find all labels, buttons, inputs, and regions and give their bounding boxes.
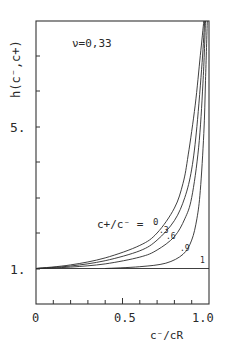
- y-tick-label-1: 1.: [10, 262, 26, 277]
- curves: [36, 21, 209, 269]
- chart: 1. 5. 0 0.5 1.0 h(c⁻,c+) c⁻/cR ν=0,33 c+…: [0, 0, 225, 349]
- x-axis-ticks: [53, 298, 191, 304]
- poisson-ratio-annotation: ν=0,33: [72, 37, 112, 50]
- curve-label-0.9: .9: [180, 244, 190, 253]
- curve-label-0.6: .6: [166, 232, 176, 241]
- x-tick-label-0.5: 0.5: [114, 311, 136, 325]
- plot-frame: [36, 21, 209, 304]
- curve-series-0.6: [36, 21, 206, 269]
- curve-label-0: 0: [153, 217, 158, 227]
- y-axis-label: h(c⁻,c+): [9, 40, 23, 98]
- y-tick-label-5: 5.: [10, 120, 26, 135]
- curve-series-0.3: [36, 21, 205, 269]
- curve-series-0.9: [105, 21, 207, 269]
- y-axis-ticks: [36, 56, 40, 269]
- legend-title: c+/c⁻ =: [97, 218, 144, 231]
- x-axis-label: c⁻/cR: [150, 329, 183, 342]
- x-tick-label-1.0: 1.0: [192, 311, 214, 325]
- x-tick-label-0: 0: [32, 311, 39, 325]
- curve-label-1: 1: [200, 256, 205, 265]
